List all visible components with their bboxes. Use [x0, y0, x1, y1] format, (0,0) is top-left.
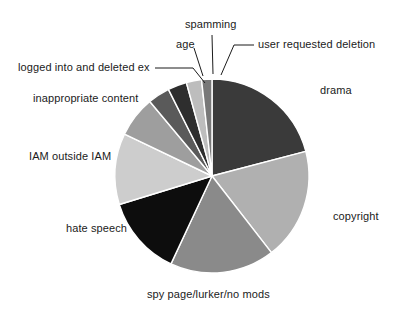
- slice-label-copyright: copyright: [333, 210, 379, 222]
- slice-label-hate-speech: hate speech: [66, 222, 127, 234]
- slice-label-inappropriate-content: inappropriate content: [33, 92, 138, 104]
- leader-lines-group: [155, 35, 254, 83]
- leader-line-age: [194, 48, 203, 76]
- slice-label-age: age: [176, 38, 195, 50]
- pie-slices-group: [115, 79, 309, 273]
- slice-label-logged-into: logged into and deleted ex: [18, 61, 150, 73]
- slice-label-iam-outside-iam: IAM outside IAM: [29, 150, 111, 162]
- slice-label-spamming: spamming: [185, 18, 237, 30]
- leader-line-spamming: [212, 35, 213, 74]
- slice-label-drama: drama: [320, 84, 352, 96]
- pie-chart: drama copyright spy page/lurker/no mods …: [0, 0, 411, 314]
- slice-label-spy-page: spy page/lurker/no mods: [147, 288, 270, 300]
- leader-line-user-requested-deletion-2: [221, 45, 234, 75]
- slice-label-user-requested-deletion: user requested deletion: [258, 38, 375, 50]
